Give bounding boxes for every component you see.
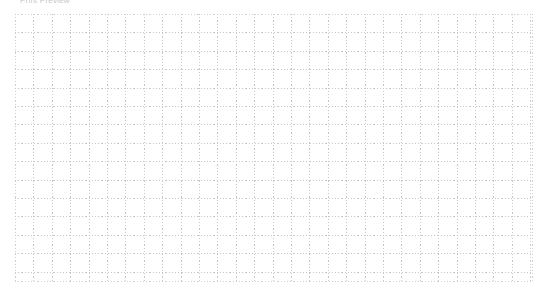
- grid-line-horizontal: [15, 235, 533, 236]
- grid-line-vertical: [181, 14, 182, 282]
- grid-line-vertical: [89, 14, 90, 282]
- grid-line-vertical: [401, 14, 402, 282]
- grid-line-horizontal: [15, 161, 533, 162]
- grid-line-vertical: [33, 14, 34, 282]
- grid-line-vertical: [309, 14, 310, 282]
- grid-line-vertical: [144, 14, 145, 282]
- grid-line-vertical: [52, 14, 53, 282]
- grid-line-vertical: [125, 14, 126, 282]
- grid-line-vertical: [532, 14, 533, 282]
- grid-horizontal-rules: [15, 14, 533, 282]
- grid-line-vertical: [530, 14, 531, 282]
- grid-vertical-rules: [15, 14, 533, 282]
- grid-line-vertical: [199, 14, 200, 282]
- grid-line-vertical: [475, 14, 476, 282]
- grid-line-horizontal: [15, 281, 533, 282]
- grid-line-vertical: [291, 14, 292, 282]
- grid-line-vertical: [365, 14, 366, 282]
- grid-line-horizontal: [15, 180, 533, 181]
- grid-line-horizontal: [15, 32, 533, 33]
- grid-line-horizontal: [15, 198, 533, 199]
- grid-line-horizontal: [15, 69, 533, 70]
- grid-line-horizontal: [15, 143, 533, 144]
- grid-line-vertical: [236, 14, 237, 282]
- grid-line-vertical: [107, 14, 108, 282]
- grid-sheet[interactable]: [15, 14, 533, 282]
- grid-line-vertical: [273, 14, 274, 282]
- grid-line-horizontal: [15, 253, 533, 254]
- page-root: Print Preview: [0, 0, 553, 300]
- grid-line-vertical: [457, 14, 458, 282]
- grid-line-vertical: [162, 14, 163, 282]
- grid-line-vertical: [70, 14, 71, 282]
- header-strip: Print Preview: [0, 0, 553, 14]
- grid-line-vertical: [217, 14, 218, 282]
- grid-line-vertical: [383, 14, 384, 282]
- grid-line-vertical: [420, 14, 421, 282]
- grid-line-vertical: [328, 14, 329, 282]
- grid-line-horizontal: [15, 88, 533, 89]
- grid-line-horizontal: [15, 51, 533, 52]
- grid-line-horizontal: [15, 216, 533, 217]
- grid-line-vertical: [438, 14, 439, 282]
- grid-line-vertical: [346, 14, 347, 282]
- page-title: Print Preview: [20, 0, 70, 6]
- grid-line-vertical: [493, 14, 494, 282]
- grid-line-horizontal: [15, 14, 533, 15]
- grid-line-horizontal: [15, 106, 533, 107]
- grid-line-vertical: [512, 14, 513, 282]
- grid-line-horizontal: [15, 124, 533, 125]
- grid-line-vertical: [254, 14, 255, 282]
- grid-line-vertical: [15, 14, 16, 282]
- grid-line-horizontal: [15, 272, 533, 273]
